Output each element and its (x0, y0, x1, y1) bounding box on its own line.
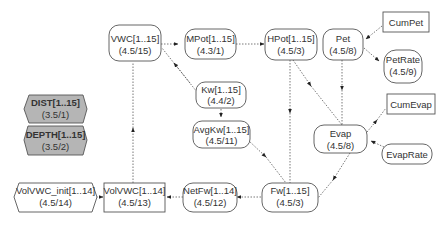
node-volvwc-label: VolVWC[1..14] (104, 185, 166, 196)
node-cumevap-label: CumEvap (390, 99, 432, 110)
node-pet-label: Pet (336, 33, 351, 44)
edge-hpot-evap (293, 60, 311, 86)
node-volvwc-init-label: VolVWC_init[1..14] (16, 185, 95, 196)
node-avgkw-label: AvgKw[1..15] (194, 124, 250, 135)
node-netfw-sub: (4.5/12) (194, 197, 227, 208)
node-cumpet[interactable]: CumPet (383, 12, 429, 32)
node-dist-label: DIST[1..15] (31, 97, 80, 108)
node-mpot-sub: (4.3/1) (197, 45, 224, 56)
node-depth-sub: (3.5/2) (42, 141, 69, 152)
node-depth-label: DEPTH[1..15] (26, 129, 86, 140)
node-cumpet-label: CumPet (389, 17, 424, 28)
node-pet[interactable]: Pet (4.5/8) (323, 29, 363, 60)
node-hpot-sub: (4.5/3) (277, 45, 304, 56)
node-mpot-label: MPot[1..15] (186, 33, 235, 44)
node-kw-sub: (4.4/2) (207, 95, 234, 106)
edge-cumpet-pet (366, 26, 382, 39)
node-evap-sub: (4.5/8) (327, 140, 354, 151)
edge-hpot-evap-cont (311, 86, 342, 125)
node-netfw[interactable]: NetFw[1..14] (4.5/12) (183, 183, 237, 212)
edge-avgkw-fw-cont (266, 157, 286, 183)
node-pet-sub: (4.5/8) (329, 45, 356, 56)
node-petrate-label: PetRate (386, 54, 420, 65)
node-fw[interactable]: Fw[1..15] (4.5/3) (262, 183, 318, 212)
node-hpot[interactable]: HPot[1..15] (4.5/3) (265, 29, 317, 60)
node-volvwc-init[interactable]: VolVWC_init[1..14] (4.5/14) (14, 183, 97, 212)
node-vwc-label: VWC[1..15] (111, 33, 160, 44)
node-kw-label: Kw[1..15] (201, 84, 241, 95)
node-depth[interactable]: DEPTH[1..15] (3.5/2) (24, 126, 87, 155)
edge-evap-cumevap (367, 120, 377, 132)
node-evaprate[interactable]: EvapRate (382, 144, 432, 164)
edge-pet-petrate (364, 48, 379, 61)
node-netfw-label: NetFw[1..14] (183, 185, 237, 196)
node-dist[interactable]: DIST[1..15] (3.5/1) (24, 95, 87, 123)
node-hpot-label: HPot[1..15] (267, 33, 315, 44)
edge-evap-fw (333, 153, 350, 180)
node-fw-sub: (4.5/3) (276, 197, 303, 208)
node-volvwc-init-sub: (4.5/14) (39, 197, 72, 208)
node-volvwc[interactable]: VolVWC[1..14] (4.5/13) (104, 183, 166, 212)
node-kw[interactable]: Kw[1..15] (4.4/2) (196, 82, 246, 108)
node-petrate[interactable]: PetRate (4.5/9) (384, 50, 422, 83)
node-dist-sub: (3.5/1) (42, 109, 69, 120)
node-avgkw-sub: (4.5/11) (205, 135, 237, 146)
edge-evaprate-evap (371, 141, 384, 147)
node-fw-label: Fw[1..15] (270, 185, 309, 196)
edge-kw-vwc-arrow (174, 63, 190, 83)
node-vwc[interactable]: VWC[1..15] (4.5/15) (109, 25, 161, 61)
node-mpot[interactable]: MPot[1..15] (4.3/1) (185, 29, 236, 59)
edge-evap-fw-cont (318, 180, 333, 198)
node-cumevap[interactable]: CumEvap (387, 94, 435, 114)
edge-evap-cumevap-cont (377, 108, 386, 120)
node-volvwc-sub: (4.5/13) (118, 197, 151, 208)
node-evap-label: Evap (330, 128, 352, 139)
node-evaprate-label: EvapRate (386, 149, 428, 160)
node-petrate-sub: (4.5/9) (389, 66, 416, 77)
edge-avgkw-fw (248, 140, 266, 157)
node-avgkw[interactable]: AvgKw[1..15] (4.5/11) (193, 121, 250, 148)
node-evap[interactable]: Evap (4.5/8) (314, 125, 367, 153)
dependency-diagram: VWC[1..15] (4.5/15) MPot[1..15] (4.3/1) … (0, 0, 442, 227)
node-vwc-sub: (4.5/15) (119, 45, 152, 56)
